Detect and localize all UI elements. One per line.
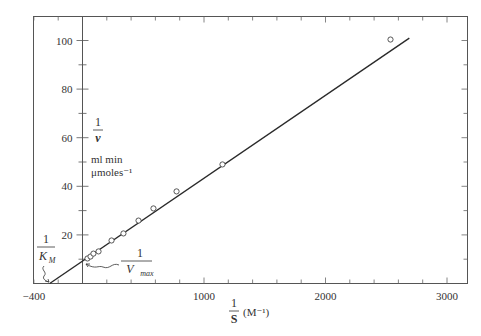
data-point: [388, 37, 393, 42]
svg-text:K: K: [38, 249, 48, 263]
y-tick-label: 100: [56, 35, 73, 47]
vmax-arrow: [86, 264, 119, 268]
svg-text:(M⁻¹): (M⁻¹): [243, 306, 270, 319]
data-point: [220, 162, 225, 167]
data-point: [109, 238, 114, 243]
y-tick-label: 20: [62, 229, 74, 241]
lineweaver-burk-chart: 20406080100 −400100020003000 1 v ml min …: [0, 0, 481, 336]
x-axis-label: 1 S (M⁻¹): [229, 296, 270, 326]
svg-text:μmoles⁻¹: μmoles⁻¹: [91, 166, 132, 178]
y-axis-label: 1 v ml min μmoles⁻¹: [91, 115, 132, 178]
svg-text:S: S: [231, 312, 238, 326]
y-tick-label: 40: [62, 180, 74, 192]
svg-text:1: 1: [43, 232, 49, 246]
data-point: [136, 218, 141, 223]
x-tick-label: 2000: [315, 290, 338, 302]
data-point: [96, 249, 101, 254]
x-tick-labels: −400100020003000: [23, 290, 459, 302]
axis-ticks: [34, 17, 468, 284]
y-tick-label: 80: [62, 83, 74, 95]
svg-text:ml min: ml min: [91, 153, 123, 165]
svg-text:max: max: [140, 269, 154, 278]
data-point: [151, 206, 156, 211]
y-tick-labels: 20406080100: [56, 35, 73, 241]
plot-frame: [34, 17, 468, 284]
x-tick-label: −400: [23, 290, 46, 302]
svg-text:1: 1: [231, 296, 237, 310]
km-annotation: 1 K M: [37, 232, 57, 282]
data-point: [174, 189, 179, 194]
data-point: [121, 231, 126, 236]
y-tick-label: 60: [62, 132, 74, 144]
svg-text:M: M: [48, 256, 57, 265]
svg-text:v: v: [95, 131, 101, 145]
x-tick-label: 3000: [436, 290, 459, 302]
svg-text:1: 1: [95, 115, 101, 129]
svg-text:1: 1: [137, 246, 143, 260]
data-point: [91, 251, 96, 256]
svg-text:V: V: [126, 262, 135, 276]
x-tick-label: 1000: [193, 290, 216, 302]
